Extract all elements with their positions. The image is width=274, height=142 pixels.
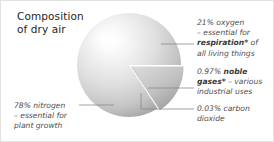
noble-line-1: 0.97% noble — [197, 67, 262, 77]
noble-line-3: industrial uses — [197, 87, 262, 97]
noble-line-1-pre: 0.97% — [197, 67, 224, 76]
oxygen-line-3: respiration* of — [197, 38, 258, 48]
nitrogen-callout: 78% nitrogen – essential for plant growt… — [14, 101, 67, 132]
co2-line-1: 0.03% carbon — [197, 104, 250, 114]
carbon-dioxide-callout: 0.03% carbon dioxide — [197, 104, 250, 124]
noble-gases-callout: 0.97% noble gases* – various industrial … — [197, 67, 262, 98]
pie-chart — [73, 7, 185, 123]
oxygen-line-2: – essential for — [197, 28, 258, 38]
oxygen-line-3-tail: of — [248, 38, 258, 47]
noble-term-part-2: gases* — [197, 77, 226, 86]
nitrogen-line-3: plant growth — [14, 121, 67, 131]
figure-root: Composition of dry air — [0, 0, 274, 142]
oxygen-line-4: all living things — [197, 49, 258, 59]
noble-line-2: gases* – various — [197, 77, 262, 87]
oxygen-term-respiration: respiration* — [197, 38, 248, 47]
noble-term-part-1: noble — [224, 67, 248, 76]
noble-line-2-tail: – various — [226, 77, 262, 86]
nitrogen-line-1: 78% nitrogen — [14, 101, 67, 111]
oxygen-line-1: 21% oxygen — [197, 18, 258, 28]
co2-line-2: dioxide — [197, 114, 250, 124]
sphere-highlight — [86, 23, 126, 55]
oxygen-callout: 21% oxygen – essential for respiration* … — [197, 18, 258, 59]
nitrogen-line-2: – essential for — [14, 111, 67, 121]
